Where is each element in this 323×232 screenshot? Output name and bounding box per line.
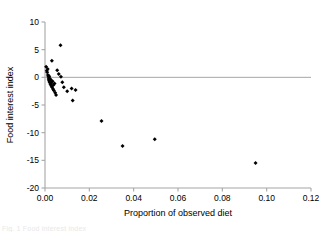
x-axis-tick-label: 0.10 (258, 193, 275, 203)
data-point (62, 85, 66, 89)
x-axis-tick-label: 0.00 (37, 193, 54, 203)
x-axis-tick-label: 0.12 (303, 193, 320, 203)
y-axis-tick-label: -20 (27, 183, 40, 193)
y-axis-tick-label: -10 (27, 128, 40, 138)
y-axis-title: Food interest index (5, 66, 15, 143)
y-axis-tick-label: 0 (34, 72, 39, 82)
data-point (55, 68, 59, 72)
y-axis-tick-label: -5 (31, 100, 39, 110)
data-point (65, 89, 69, 93)
data-point (50, 59, 54, 63)
data-point (71, 99, 75, 103)
data-point (100, 119, 104, 123)
data-point (254, 161, 258, 165)
data-point (153, 137, 157, 141)
data-point (60, 80, 64, 84)
x-axis-title: Proportion of observed diet (124, 208, 233, 218)
data-point (59, 43, 63, 47)
data-point (70, 86, 74, 90)
figure-caption: Fig. 1 Food interest index (2, 225, 86, 232)
y-axis-tick-label: 10 (30, 17, 40, 27)
scatter-chart-figure: 1050-5-10-15-200.000.020.040.060.080.100… (0, 0, 323, 232)
x-axis-tick-label: 0.04 (125, 193, 142, 203)
y-axis-tick-label: -15 (27, 155, 40, 165)
data-point (57, 72, 61, 76)
x-axis-tick-label: 0.08 (214, 193, 231, 203)
x-axis-tick-label: 0.06 (170, 193, 187, 203)
data-point (59, 75, 63, 79)
x-axis-tick-label: 0.02 (81, 193, 98, 203)
y-axis-tick-label: 5 (34, 45, 39, 55)
data-point (121, 144, 125, 148)
data-point (74, 88, 78, 92)
chart-svg: 1050-5-10-15-200.000.020.040.060.080.100… (0, 0, 323, 232)
data-point-group (44, 43, 257, 165)
